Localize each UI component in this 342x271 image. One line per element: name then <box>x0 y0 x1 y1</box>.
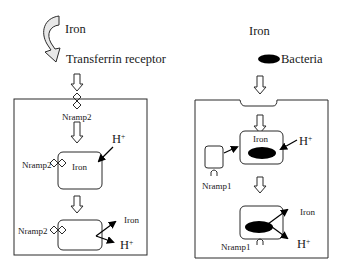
iron-out-label: Iron <box>300 208 315 217</box>
bacteria-label: Bacteria <box>281 53 323 66</box>
proton-label: H+ <box>299 135 312 148</box>
nramp1-label: Nramp1 <box>221 243 251 252</box>
curved-arrow-icon <box>44 16 60 62</box>
down-arrow-icon <box>254 115 266 133</box>
bacteria-in-vesicle-1 <box>248 147 276 159</box>
bacteria-icon <box>258 55 280 64</box>
nramp1-to-vesicle-arrow <box>224 147 237 153</box>
iron-label: Iron <box>249 25 270 38</box>
iron-out-label: Iron <box>124 216 139 225</box>
nramp1-transporter-icon <box>205 146 223 176</box>
vesicle-iron-label: Iron <box>72 163 87 172</box>
proton-label: H+ <box>120 239 133 252</box>
transferrin-receptor-diamonds <box>73 93 81 109</box>
vesicle-left-2 <box>58 220 102 250</box>
iron-label: Iron <box>65 23 86 36</box>
proton-label: H+ <box>297 238 310 251</box>
diagram-canvas <box>0 0 342 271</box>
nramp2-label: Nramp2 <box>18 227 48 236</box>
nramp1-transporter-icon-2 <box>257 239 263 245</box>
transferrin-receptor-label: Transferrin receptor <box>66 53 166 66</box>
nramp2-label: Nramp2 <box>22 161 52 170</box>
proton-label: H+ <box>112 133 125 146</box>
down-arrow-icon <box>254 177 266 193</box>
nramp1-label: Nramp1 <box>202 182 232 191</box>
vesicle-iron-label: Iron <box>253 135 268 144</box>
down-arrow-icon <box>71 122 83 143</box>
down-arrow-icon <box>71 74 83 91</box>
down-arrow-icon <box>254 76 266 94</box>
nramp2-label: Nramp2 <box>62 113 92 122</box>
down-arrow-icon <box>71 196 83 213</box>
